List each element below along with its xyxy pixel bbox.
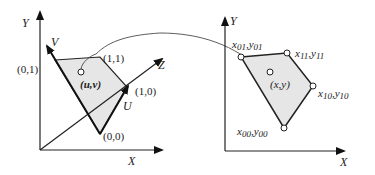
left-z-label: Z [158,58,165,72]
left-x-label: X [127,154,136,168]
corner-01-point [238,54,244,60]
u-label: U [123,99,133,113]
uv-point-label: (u,v) [80,78,101,91]
right-y-label: Y [230,14,238,28]
xy-point-label: (x,y) [270,78,290,91]
xy-point [267,69,273,75]
left-diagram: Y V (0,1) (1,1) Z (1,0) U (u,v) (0,0) X [17,12,165,168]
corner-11-label: x11,y11 [294,47,324,61]
corner-01-label: (0,1) [17,63,38,76]
uv-quad [55,57,127,134]
mapping-diagram: Y V (0,1) (1,1) Z (1,0) U (u,v) (0,0) X … [0,0,375,175]
v-label: V [51,35,60,49]
corner-01-label: x01,y01 [231,38,263,52]
corner-00-label: (0,0) [103,130,124,143]
xy-quad [241,53,313,128]
corner-10-label: x10,y10 [317,87,349,101]
corner-11-point [284,50,290,56]
corner-00-point [281,125,287,131]
right-x-label: X [339,155,348,169]
left-y-label: Y [22,16,30,30]
right-diagram: Y x01,y01 x11,y11 x10,y10 x00,y00 (x,y) … [225,14,349,169]
uv-point [78,69,84,75]
corner-11-label: (1,1) [103,52,124,65]
corner-10-label: (1,0) [135,85,156,98]
corner-10-point [310,83,316,89]
corner-00-label: x00,y00 [236,125,268,139]
